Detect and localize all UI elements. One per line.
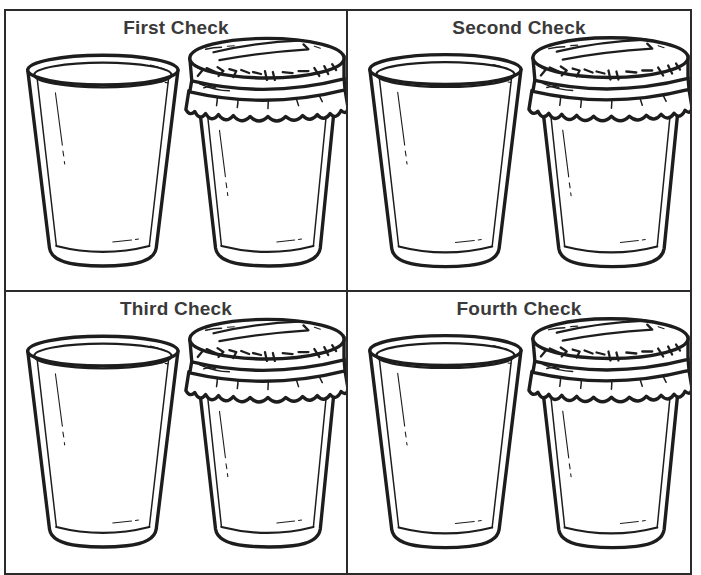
- panel-illustration: [6, 316, 346, 564]
- jar-with-cloth-cover-illustration: [186, 319, 346, 547]
- jar-with-cloth-cover-illustration: [529, 38, 690, 267]
- jar-with-cloth-cover-illustration: [529, 319, 690, 548]
- drinking-glass-illustration: [370, 336, 521, 548]
- jar-with-cloth-cover-illustration: [186, 38, 346, 266]
- panel-illustration: [6, 35, 346, 283]
- panel-illustration: [348, 316, 690, 564]
- panel-first-check: First Check: [6, 11, 348, 292]
- panel-second-check: Second Check: [348, 11, 690, 292]
- worksheet-grid: First Check: [4, 9, 692, 575]
- panel-illustration: [348, 35, 690, 283]
- drinking-glass-illustration: [28, 55, 178, 266]
- drinking-glass-illustration: [28, 336, 178, 547]
- panel-fourth-check: Fourth Check: [348, 292, 690, 573]
- panel-third-check: Third Check: [6, 292, 348, 573]
- drinking-glass-illustration: [370, 55, 521, 267]
